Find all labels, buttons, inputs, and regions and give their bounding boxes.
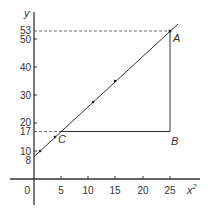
point-label-a: A [172,32,180,44]
x-tick-20: 20 [137,185,149,196]
y-tick-17: 17 [20,126,32,137]
x-axis-label: x2 [186,183,197,196]
x-tick-5: 5 [58,185,64,196]
y-tick-40: 40 [20,62,32,73]
point-label-b: B [171,135,178,147]
point-label-c: C [58,133,66,145]
x-tick-0: 0 [24,185,30,196]
x-tick-25: 25 [164,185,176,196]
y-axis-label: y [23,7,31,19]
data-point [169,30,172,33]
y-tick-30: 30 [20,90,32,101]
y-tick-8: 8 [25,155,31,166]
x-tick-15: 15 [109,185,121,196]
chart: 0 5 10 15 20 25 x2 53 50 40 30 20 17 10 … [0,0,214,212]
y-tick-50: 50 [20,34,32,45]
x-tick-10: 10 [82,185,94,196]
data-point [114,80,117,83]
data-point [54,136,57,139]
data-point [39,150,42,153]
data-point [92,101,95,104]
